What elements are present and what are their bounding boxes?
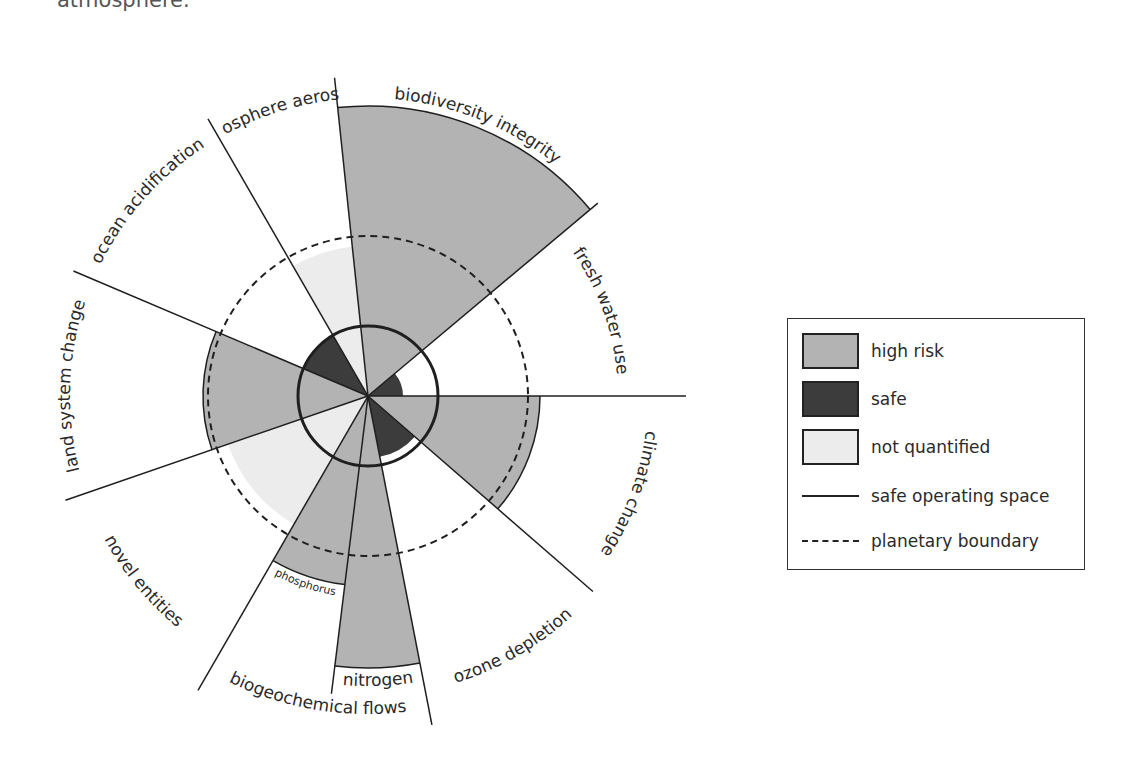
label-ocean-acidification: ocean acidification <box>86 133 207 267</box>
legend-label: high risk <box>871 341 944 361</box>
legend-label: not quantified <box>871 437 990 457</box>
label-atmosphere-aerosols: atmosphere aerosols <box>0 0 340 138</box>
legend-label: safe <box>871 389 907 409</box>
label-novel-entities: novel entities <box>101 531 188 630</box>
legend-label: planetary boundary <box>871 531 1039 551</box>
legend-label: safe operating space <box>871 486 1049 506</box>
high-risk-swatch <box>802 333 859 369</box>
label-ozone-depletion: ozone depletion <box>451 603 576 686</box>
sector-climate-change <box>368 396 540 509</box>
not-quantified-swatch <box>802 429 859 465</box>
legend: high risk safe not quantified safe opera… <box>787 318 1085 570</box>
label-climate-change: climate change <box>597 430 662 561</box>
label-fresh-water-use: fresh water use <box>569 243 633 375</box>
legend-item-high-risk: high risk <box>802 333 944 369</box>
legend-item-not-quantified: not quantified <box>802 429 990 465</box>
sectors <box>203 106 590 668</box>
label-land-system-change: land system change <box>54 297 89 475</box>
label-nitrogen: nitrogen <box>342 667 414 690</box>
legend-item-planetary-boundary: planetary boundary <box>802 531 1039 551</box>
legend-item-safe-operating-space: safe operating space <box>802 486 1049 506</box>
legend-item-safe: safe <box>802 381 907 417</box>
solid-line-sample <box>802 495 859 497</box>
safe-swatch <box>802 381 859 417</box>
dashed-line-sample <box>802 540 859 542</box>
